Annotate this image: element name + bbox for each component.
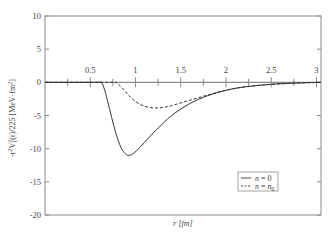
plot-border: [45, 16, 321, 215]
x-axis-label: r [fm]: [173, 219, 192, 228]
y-tick-label: -5: [34, 111, 41, 121]
plot-curves: [45, 82, 321, 156]
chart-canvas: 1050-5-10-15-20 0.511.522.53 -r2V12(r)/2…: [0, 0, 334, 235]
x-tick-label: 2.5: [266, 65, 277, 75]
x-tick-label: 2: [224, 65, 228, 75]
x-tick-label: 3: [314, 65, 318, 75]
x-tick-label: 0.5: [85, 65, 96, 75]
x-tick-label: 1.5: [175, 65, 186, 75]
y-tick-label: 10: [33, 11, 42, 21]
curve-n0-solid: [45, 82, 321, 156]
y-axis-label: -r2V12(r)/225 [MeV·fm2]: [7, 79, 18, 157]
x-tick-label: 1: [133, 65, 137, 75]
y-tick-label: -15: [30, 177, 41, 187]
y-tick-label: -20: [30, 210, 41, 220]
legend: n= 0 n= n0: [238, 172, 278, 192]
curve-n-n0-dashed: [45, 82, 321, 108]
y-tick-label: 0: [37, 77, 41, 87]
y-tick-label: -10: [30, 144, 41, 154]
y-tick-label: 5: [37, 44, 41, 54]
plot-frame: [45, 16, 321, 215]
